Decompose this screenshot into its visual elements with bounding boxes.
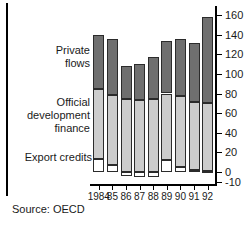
y-tick-label: 80: [225, 88, 237, 99]
bar-segment-export-credits: [121, 172, 132, 176]
x-tick-label: 90: [175, 192, 186, 202]
y-tick-label: 100: [225, 68, 243, 79]
x-tick-label: 89: [161, 192, 172, 202]
y-tick: [217, 113, 222, 114]
y-tick-label: 60: [225, 108, 237, 119]
bar-segment-private-flows: [107, 39, 118, 96]
bar-segment-export-credits: [107, 165, 118, 172]
x-tick-label: 87: [134, 192, 145, 202]
bar-segment-private-flows: [121, 66, 132, 99]
bar-segment-private-flows: [189, 43, 200, 102]
x-tick-label: 91: [188, 192, 199, 202]
bar-segment-export-credits: [134, 172, 145, 177]
bar-91: [189, 8, 200, 180]
x-tick: [112, 186, 113, 190]
x-tick: [208, 186, 209, 190]
x-tick: [153, 186, 154, 190]
y-tick-label: 160: [225, 10, 243, 21]
bar-segment-private-flows: [202, 17, 213, 103]
y-tick-label: 140: [225, 29, 243, 40]
bar-87: [134, 8, 145, 180]
y-axis-line: [215, 6, 217, 186]
bar-segment-official-development-finance: [175, 96, 186, 167]
x-tick: [126, 186, 127, 190]
plot-area: [92, 8, 215, 180]
x-tick-label: 92: [202, 192, 213, 202]
y-tick-label: 120: [225, 49, 243, 60]
bar-88: [148, 8, 159, 180]
bar-1984: [93, 8, 104, 180]
bar-segment-official-development-finance: [134, 100, 145, 172]
y-tick: [217, 152, 222, 153]
legend-label-official-development-finance: Official development finance: [8, 96, 90, 135]
bar-segment-official-development-finance: [189, 102, 200, 170]
bar-segment-export-credits: [148, 172, 159, 177]
bar-segment-export-credits: [202, 171, 213, 173]
bar-90: [175, 8, 186, 180]
bar-86: [121, 8, 132, 180]
y-tick: [217, 74, 222, 75]
y-tick-label: 20: [225, 147, 237, 158]
y-tick: [217, 172, 222, 173]
x-tick-label: 88: [148, 192, 159, 202]
x-tick-label: 85: [107, 192, 118, 202]
legend-label-private-flows: Private flows: [8, 44, 90, 70]
legend-label-export-credits: Export credits: [2, 151, 92, 164]
bar-segment-official-development-finance: [121, 99, 132, 172]
x-tick: [167, 186, 168, 190]
y-tick-label: 40: [225, 127, 237, 138]
x-tick-label: 86: [120, 192, 131, 202]
y-tick: [217, 54, 222, 55]
y-tick: [217, 35, 222, 36]
x-tick: [140, 186, 141, 190]
bar-segment-official-development-finance: [107, 95, 118, 165]
y-tick: [217, 133, 222, 134]
bar-segment-private-flows: [93, 35, 104, 89]
bar-segment-export-credits: [175, 167, 186, 172]
bar-segment-official-development-finance: [161, 94, 172, 161]
bar-85: [107, 8, 118, 180]
y-tick-label: -10: [225, 176, 241, 187]
chart-figure: Private flows Official development finan…: [0, 0, 252, 230]
source-note: Source: OECD: [12, 203, 85, 216]
bar-segment-export-credits: [189, 170, 200, 172]
x-tick: [180, 186, 181, 190]
bar-segment-export-credits: [161, 160, 172, 172]
y-tick: [217, 94, 222, 95]
bar-segment-private-flows: [134, 64, 145, 100]
bar-segment-export-credits: [93, 159, 104, 172]
bar-segment-official-development-finance: [202, 103, 213, 171]
bar-92: [202, 8, 213, 180]
bar-segment-private-flows: [175, 39, 186, 97]
x-tick: [99, 186, 100, 190]
bar-segment-private-flows: [161, 41, 172, 93]
x-tick: [194, 186, 195, 190]
bar-segment-official-development-finance: [93, 89, 104, 160]
y-tick: [217, 15, 222, 16]
y-tick: [217, 182, 222, 183]
bar-segment-private-flows: [148, 57, 159, 99]
y-tick-label: 0: [225, 167, 231, 178]
bar-segment-official-development-finance: [148, 99, 159, 172]
bar-89: [161, 8, 172, 180]
